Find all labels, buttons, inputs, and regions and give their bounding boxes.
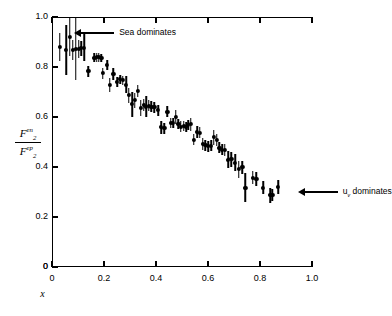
data-point <box>237 162 247 172</box>
data-marker <box>240 165 244 169</box>
y-axis-label: Fen2 Fep2 <box>6 126 50 159</box>
data-marker <box>270 192 274 196</box>
x-axis-tick <box>259 261 261 267</box>
annotation-label-sea-dominates: Sea dominates <box>119 28 176 37</box>
y-axis-tick <box>52 66 58 68</box>
y-axis-label-denominator: Fep2 <box>6 144 50 159</box>
x-axis-top-tick <box>259 17 261 23</box>
x-axis-top-tick <box>311 17 313 23</box>
data-point <box>102 60 112 70</box>
x-axis-label-text: x <box>40 288 44 299</box>
y-axis-tick <box>52 166 58 168</box>
x-axis-tick <box>103 261 105 267</box>
x-axis-top-tick <box>103 17 105 23</box>
data-marker <box>101 71 105 75</box>
data-marker <box>276 184 280 188</box>
y-axis-label-fraction-bar <box>15 142 41 143</box>
x-axis-tick-label: 1.0 <box>292 274 332 283</box>
x-axis-top-tick <box>207 17 209 23</box>
y-axis-tick <box>52 116 58 118</box>
x-axis-tick <box>155 261 157 267</box>
annotation-label-uv-dominates: uv dominates <box>343 187 392 198</box>
data-marker <box>82 45 86 49</box>
x-axis-tick-label: 0.6 <box>188 274 228 283</box>
y-axis-tick <box>52 216 58 218</box>
data-point <box>273 182 283 192</box>
data-marker <box>261 185 265 189</box>
data-point <box>195 128 205 138</box>
data-marker <box>243 185 247 189</box>
data-marker <box>198 130 202 134</box>
data-marker <box>223 148 227 152</box>
data-marker <box>86 69 90 73</box>
y-axis-tick-label: 0.6 <box>10 112 48 121</box>
y-axis-tick <box>52 266 58 268</box>
data-marker <box>156 108 160 112</box>
x-axis-label: x <box>0 288 379 299</box>
x-axis-top-tick <box>155 17 157 23</box>
x-axis-tick <box>207 261 209 267</box>
data-marker <box>133 98 137 102</box>
data-marker <box>124 82 128 86</box>
x-axis-tick <box>311 261 313 267</box>
y-axis-tick-label: 0.2 <box>10 212 48 221</box>
data-point <box>240 183 250 193</box>
annotation-arrow-sea-dominates <box>80 32 114 34</box>
data-marker <box>254 177 258 181</box>
data-point <box>83 66 93 76</box>
x-axis-tick-label: 0.2 <box>84 274 124 283</box>
y-axis-tick-label: 0.4 <box>10 162 48 171</box>
data-marker <box>192 137 196 141</box>
x-axis-tick <box>51 261 53 267</box>
data-point <box>133 86 143 96</box>
x-axis-tick-label: 0 <box>32 274 72 283</box>
y-axis-tick-label: 1.0 <box>10 12 48 21</box>
annotation-symbol-rest: dominates <box>350 186 392 196</box>
data-marker <box>189 122 193 126</box>
data-point <box>98 68 108 78</box>
data-marker <box>105 62 109 66</box>
x-axis-top-tick <box>51 17 53 23</box>
y-axis-tick-label: 0.8 <box>10 62 48 71</box>
y-axis-label-numerator: Fen2 <box>6 126 50 141</box>
annotation-arrow-uv-dominates <box>304 191 338 193</box>
x-axis-tick-label: 0.8 <box>240 274 280 283</box>
data-marker <box>136 89 140 93</box>
data-marker <box>165 109 169 113</box>
data-point <box>79 43 89 53</box>
origin-zero-label: 0 <box>10 262 48 271</box>
x-axis-tick-label: 0.4 <box>136 274 176 283</box>
y-axis-tick <box>52 16 58 18</box>
data-marker <box>68 35 72 39</box>
